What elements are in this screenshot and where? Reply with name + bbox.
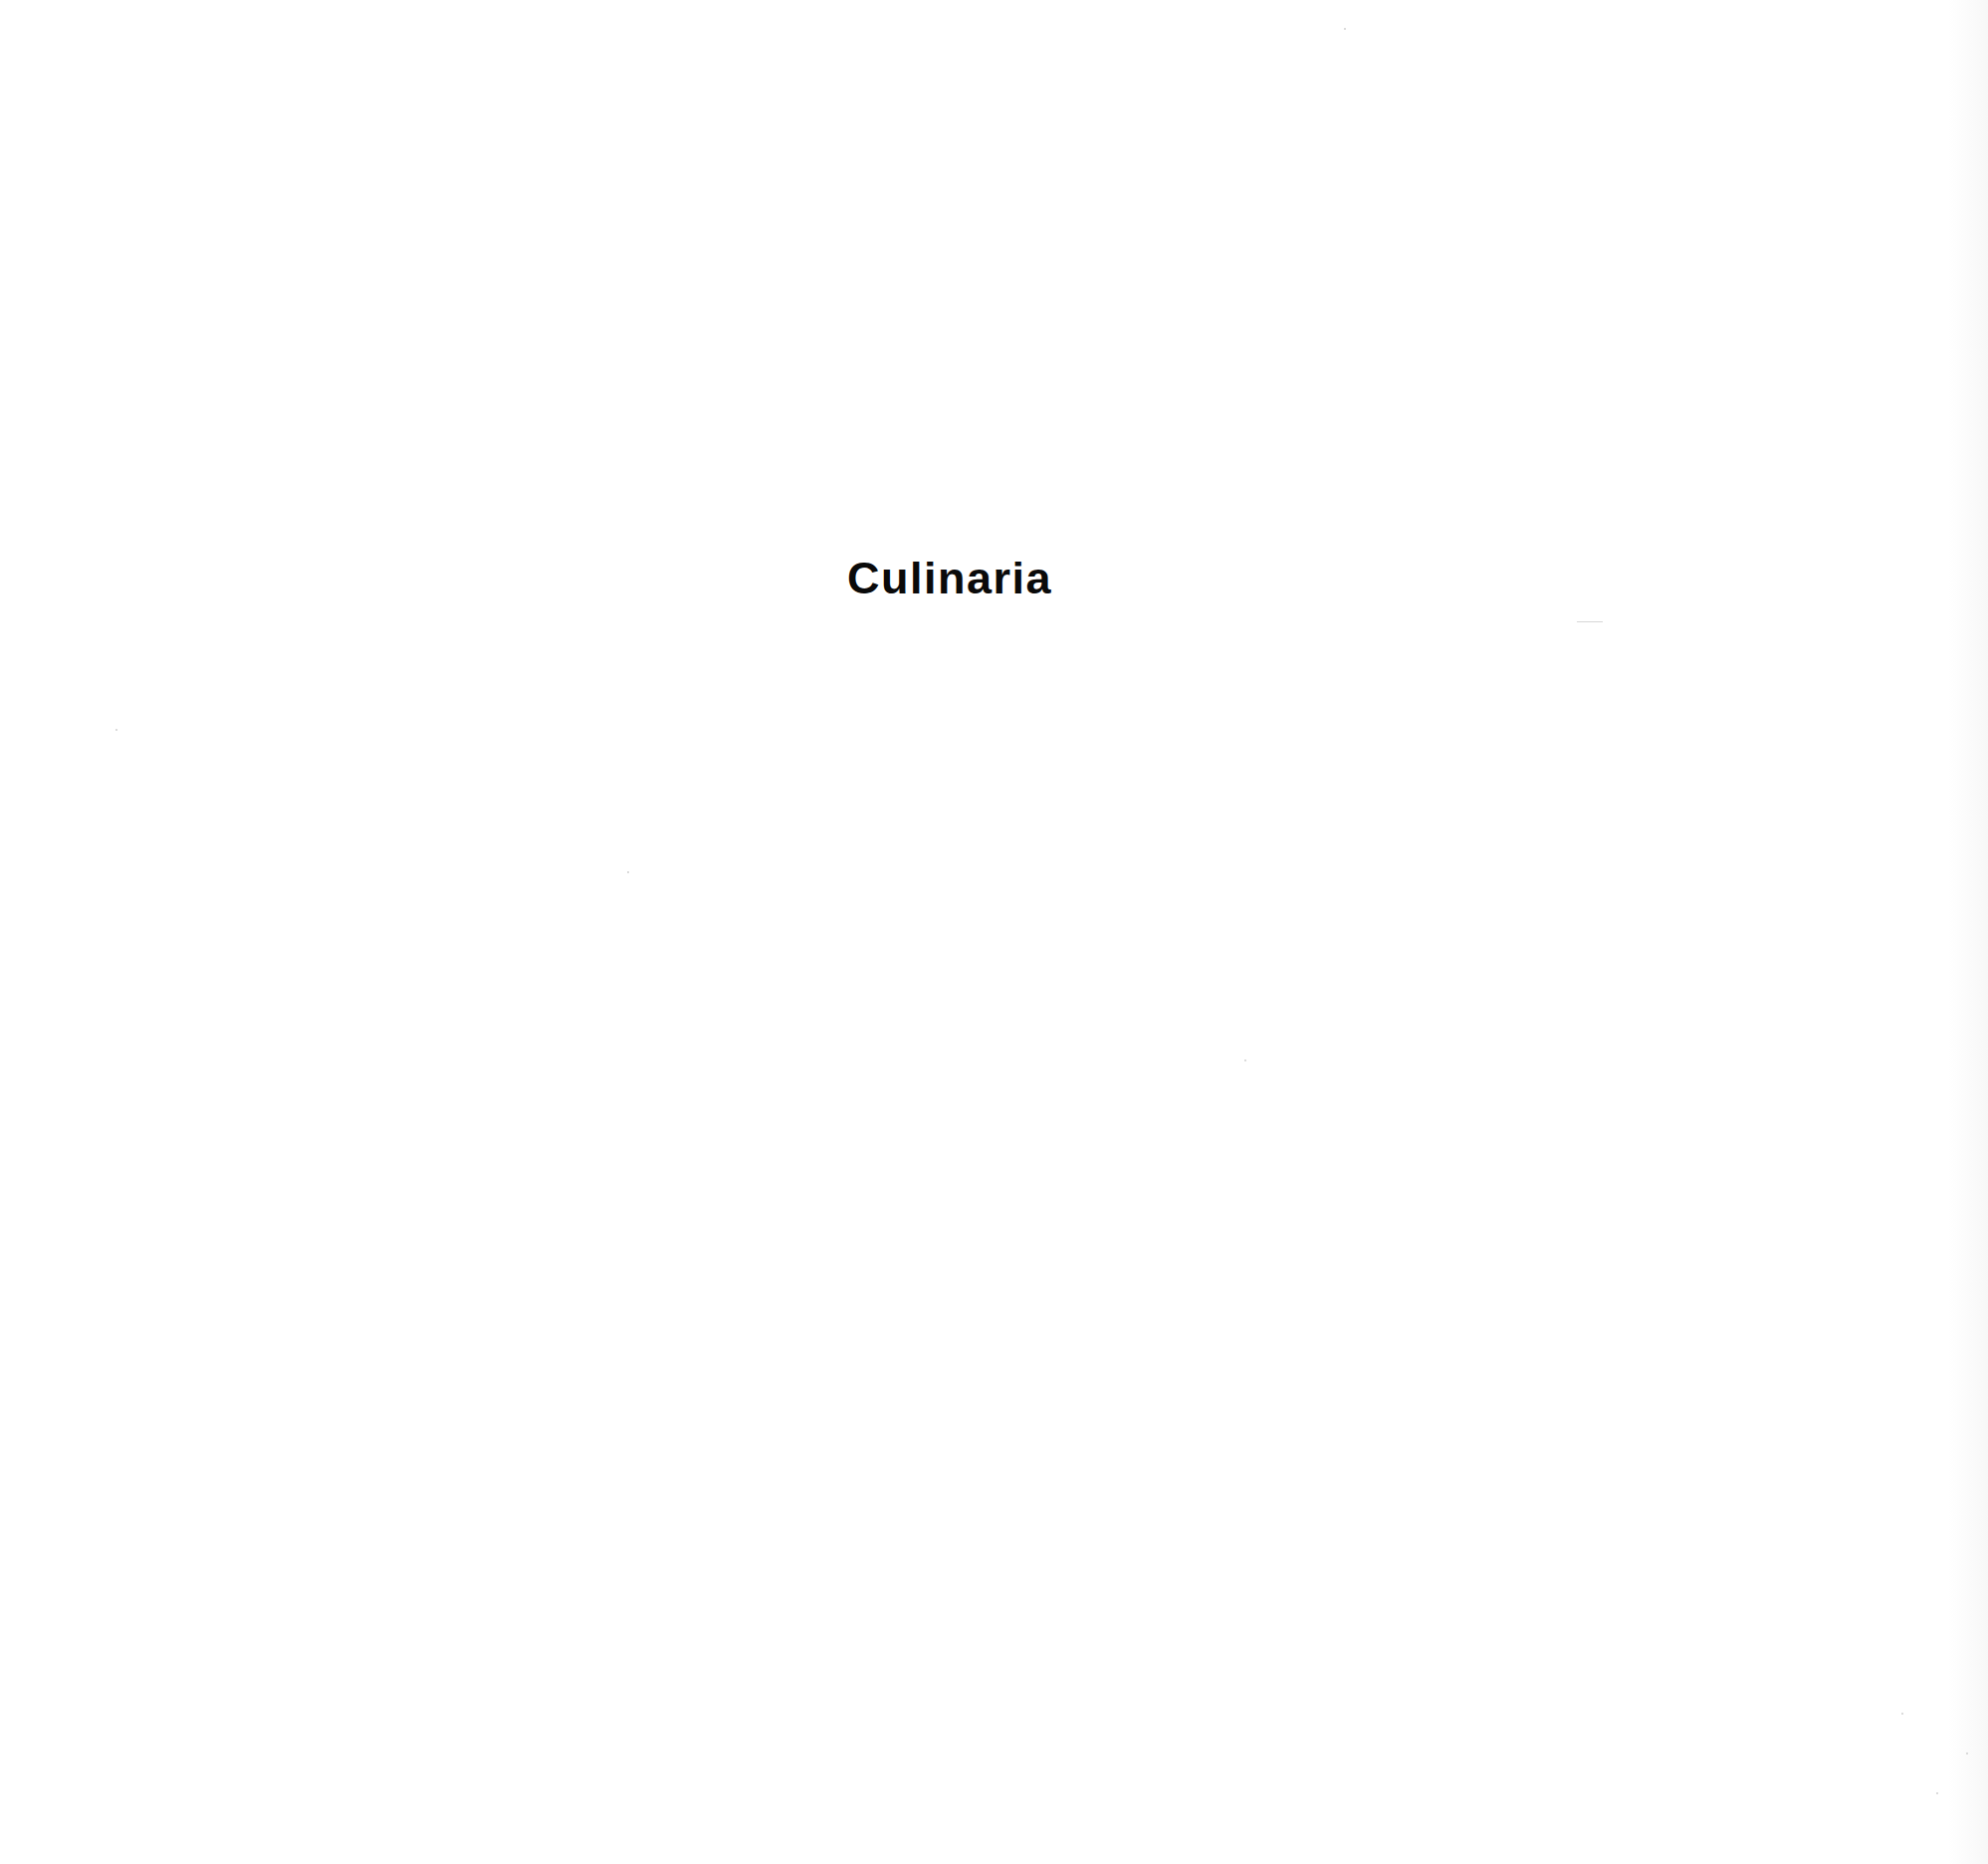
page-title: Culinaria xyxy=(847,551,1052,606)
scan-speck xyxy=(627,871,629,873)
page-edge-shadow xyxy=(1948,0,1988,1864)
book-page: Culinaria xyxy=(0,0,1988,1864)
scan-artifact-dash xyxy=(1577,621,1603,622)
scan-speck xyxy=(1936,1792,1938,1794)
scan-speck xyxy=(1344,28,1346,30)
scan-speck xyxy=(1966,1752,1968,1754)
scan-speck xyxy=(1244,1059,1246,1061)
scan-speck xyxy=(115,729,117,731)
scan-speck xyxy=(1901,1713,1903,1715)
